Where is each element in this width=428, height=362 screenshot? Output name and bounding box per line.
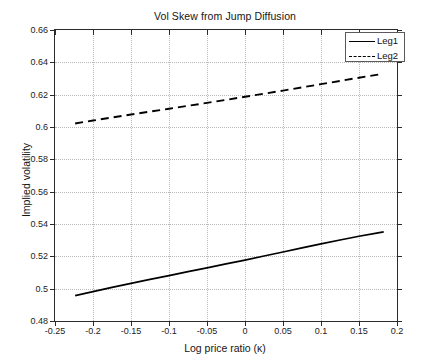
x-tick-label: 0.15 xyxy=(350,326,368,336)
y-tick-mark xyxy=(397,192,402,193)
series-line-leg1 xyxy=(75,232,384,296)
y-tick-label: 0.6 xyxy=(35,122,48,132)
y-tick-label: 0.62 xyxy=(30,90,48,100)
y-axis-label: Implied volatility xyxy=(20,100,32,260)
y-tick-label: 0.64 xyxy=(30,57,48,67)
x-tick-label: -0.1 xyxy=(161,326,177,336)
x-axis-label: Log price ratio (κ) xyxy=(54,342,396,354)
y-tick-mark xyxy=(397,159,402,160)
legend-entry-leg2[interactable]: Leg2 xyxy=(346,48,404,63)
y-tick-label: 0.58 xyxy=(30,154,48,164)
y-tick-label: 0.54 xyxy=(30,219,48,229)
figure-canvas: Vol Skew from Jump Diffusion Implied vol… xyxy=(0,0,428,362)
series-line-leg2 xyxy=(75,74,381,123)
x-tick-label: -0.05 xyxy=(197,326,218,336)
y-tick-mark xyxy=(397,289,402,290)
x-tick-label: 0 xyxy=(242,326,247,336)
legend-swatch-dashed-icon xyxy=(349,51,375,61)
y-tick-mark xyxy=(397,256,402,257)
legend-swatch-solid-icon xyxy=(349,36,375,46)
x-tick-label: -0.2 xyxy=(85,326,101,336)
y-tick-label: 0.66 xyxy=(30,25,48,35)
y-tick-label: 0.56 xyxy=(30,187,48,197)
x-tick-label: -0.25 xyxy=(45,326,66,336)
plot-area: 0.480.50.520.540.560.580.60.620.640.66 -… xyxy=(54,29,398,322)
legend-label-leg2: Leg2 xyxy=(377,50,398,61)
y-tick-label: 0.48 xyxy=(30,316,48,326)
chart-title: Vol Skew from Jump Diffusion xyxy=(54,10,396,22)
y-tick-mark xyxy=(397,95,402,96)
x-tick-label: 0.1 xyxy=(315,326,328,336)
y-tick-mark xyxy=(397,224,402,225)
x-tick-label: -0.15 xyxy=(121,326,142,336)
legend-label-leg1: Leg1 xyxy=(377,35,398,46)
x-tick-label: 0.05 xyxy=(274,326,292,336)
data-curves xyxy=(55,30,397,321)
legend-entry-leg1[interactable]: Leg1 xyxy=(346,33,404,48)
y-tick-label: 0.5 xyxy=(35,284,48,294)
legend-box[interactable]: Leg1 Leg2 xyxy=(345,32,405,62)
y-tick-mark xyxy=(397,127,402,128)
x-tick-label: 0.2 xyxy=(391,326,404,336)
y-tick-label: 0.52 xyxy=(30,251,48,261)
